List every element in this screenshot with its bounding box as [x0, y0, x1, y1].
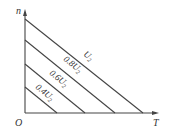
- line-u2: [25, 19, 143, 113]
- line-0.8u2: [25, 40, 115, 113]
- x-axis-arrow-icon: [152, 111, 159, 115]
- origin-label: O: [15, 117, 22, 128]
- label-u2: U2: [81, 49, 95, 64]
- svg-text:0.4U2: 0.4U2: [33, 82, 56, 104]
- y-axis-arrow-icon: [23, 9, 27, 16]
- svg-text:0.6U2: 0.6U2: [47, 68, 70, 90]
- y-axis-label: n: [16, 5, 21, 16]
- label-0.4u2: 0.4U2: [33, 82, 56, 104]
- x-axis-label: T: [153, 117, 160, 128]
- mechanical-characteristic-diagram: n T O U2 0.8U2 0.6U2 0.4U2: [0, 0, 173, 135]
- label-0.6u2: 0.6U2: [47, 68, 70, 90]
- svg-text:U2: U2: [81, 49, 95, 64]
